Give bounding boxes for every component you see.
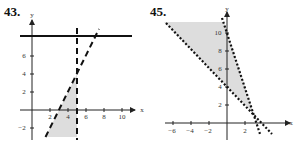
svg-text:y: y (30, 11, 34, 19)
graphs: 246 810 246 −2 xy −6−4−2 2 246 810 xy (0, 0, 296, 146)
svg-text:x: x (140, 106, 144, 114)
svg-text:10: 10 (215, 29, 223, 37)
svg-text:6: 6 (218, 65, 222, 73)
svg-text:y: y (225, 5, 229, 13)
svg-text:6: 6 (84, 113, 88, 121)
svg-text:8: 8 (218, 47, 222, 55)
svg-text:2: 2 (48, 113, 52, 121)
svg-text:−6: −6 (168, 127, 176, 135)
svg-text:x: x (289, 119, 293, 127)
graph-43: 246 810 246 −2 xy (18, 11, 144, 140)
svg-text:6: 6 (22, 52, 26, 60)
svg-text:4: 4 (22, 70, 26, 78)
svg-text:10: 10 (119, 113, 127, 121)
svg-text:4: 4 (218, 83, 222, 91)
svg-text:2: 2 (22, 88, 26, 96)
svg-text:8: 8 (102, 113, 106, 121)
graph-45: −6−4−2 2 246 810 xy (164, 5, 293, 140)
svg-text:−4: −4 (186, 127, 194, 135)
svg-text:2: 2 (218, 101, 222, 109)
svg-text:−2: −2 (18, 124, 26, 132)
svg-text:2: 2 (243, 127, 247, 135)
svg-text:4: 4 (66, 113, 70, 121)
svg-text:−2: −2 (204, 127, 212, 135)
